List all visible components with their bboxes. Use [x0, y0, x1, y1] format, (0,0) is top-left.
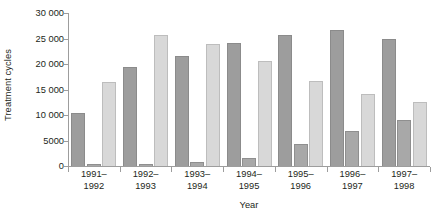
bar — [330, 30, 344, 166]
y-axis-tick-label: 10 000 — [16, 110, 64, 120]
bar — [278, 35, 292, 166]
bar — [227, 43, 241, 166]
x-axis-tick-label: 1994–1995 — [223, 169, 275, 192]
x-axis-tick-label-line: 1995– — [275, 169, 327, 181]
x-axis-tick-label-line: 1995 — [223, 181, 275, 193]
x-axis-tick-label-line: 1992 — [68, 181, 120, 193]
x-axis-tick-label-line: 1996– — [327, 169, 379, 181]
bar — [345, 131, 359, 166]
x-axis-title: Year — [68, 200, 430, 210]
x-axis-tick-mark — [430, 167, 431, 172]
x-axis-tick-label-line: 1994 — [171, 181, 223, 193]
x-axis-tick-label-line: 1993– — [171, 169, 223, 181]
bar — [397, 120, 411, 166]
x-axis-tick-label-line: 1993 — [120, 181, 172, 193]
bar — [294, 144, 308, 166]
plot-area — [68, 13, 430, 166]
x-axis-tick-label-line: 1994– — [223, 169, 275, 181]
bar-chart-figure: Treatment cycles 0500010 00015 00020 000… — [0, 0, 434, 218]
x-axis-tick-label-line: 1997– — [378, 169, 430, 181]
y-axis-tick-label: 20 000 — [16, 59, 64, 69]
y-axis-tick-label: 5000 — [16, 136, 64, 146]
x-axis-tick-label-line: 1996 — [275, 181, 327, 193]
x-axis-tick-label: 1992–1993 — [120, 169, 172, 192]
bar-series-group — [68, 13, 430, 166]
x-axis-tick-label: 1991–1992 — [68, 169, 120, 192]
bar — [175, 56, 189, 166]
bar — [242, 158, 256, 166]
bar — [382, 39, 396, 166]
bar — [258, 61, 272, 166]
y-axis-tick-label: 25 000 — [16, 34, 64, 44]
x-axis-tick-label: 1997–1998 — [378, 169, 430, 192]
x-axis-line — [68, 166, 430, 167]
y-axis-title: Treatment cycles — [0, 0, 16, 170]
x-axis-tick-label-line: 1998 — [378, 181, 430, 193]
bar — [413, 102, 427, 166]
bar — [87, 164, 101, 166]
y-axis-tick-label: 0 — [16, 161, 64, 171]
bar — [102, 82, 116, 166]
x-axis-tick-label: 1995–1996 — [275, 169, 327, 192]
bar — [309, 81, 323, 166]
bar — [139, 164, 153, 166]
x-axis-tick-label: 1996–1997 — [327, 169, 379, 192]
x-axis-tick-labels: 1991–19921992–19931993–19941994–19951995… — [68, 169, 430, 197]
x-axis-tick-label: 1993–1994 — [171, 169, 223, 192]
y-axis-tick-labels: 0500010 00015 00020 00025 00030 000 — [16, 0, 64, 175]
bar — [123, 67, 137, 166]
x-axis-tick-label-line: 1997 — [327, 181, 379, 193]
x-axis-tick-label-line: 1992– — [120, 169, 172, 181]
y-axis-tick-label: 15 000 — [16, 85, 64, 95]
y-axis-title-text: Treatment cycles — [3, 49, 13, 121]
bar — [71, 113, 85, 166]
bar — [154, 35, 168, 166]
bar — [190, 162, 204, 166]
x-axis-tick-label-line: 1991– — [68, 169, 120, 181]
y-axis-tick-label: 30 000 — [16, 8, 64, 18]
bar — [361, 94, 375, 166]
bar — [206, 44, 220, 166]
